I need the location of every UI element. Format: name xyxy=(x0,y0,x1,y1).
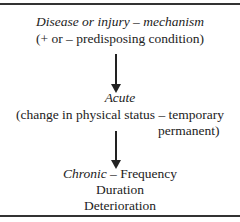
node2-line2: permanent) xyxy=(158,123,219,139)
top-border xyxy=(0,3,240,5)
down-arrow-icon xyxy=(115,54,117,87)
node3-frequency: – Frequency xyxy=(107,166,177,181)
node2-line1: (change in physical status – temporary xyxy=(0,107,240,123)
node1-subtitle: (+ or – predisposing condition) xyxy=(0,31,240,47)
node3-deterioration: Deterioration xyxy=(0,198,240,214)
bottom-border xyxy=(0,215,240,217)
node2-title: Acute xyxy=(0,90,240,106)
node3-line1: Chronic – Frequency xyxy=(0,166,240,182)
down-arrow-icon xyxy=(115,131,117,163)
node1-title: Disease or injury – mechanism xyxy=(0,14,240,30)
node3-title: Chronic xyxy=(63,166,107,181)
node3-duration: Duration xyxy=(0,182,240,198)
